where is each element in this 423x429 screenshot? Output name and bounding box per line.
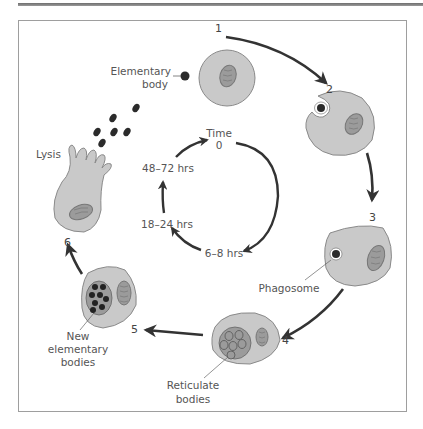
stage-4-cell [204,313,280,378]
arrow-4-to-5 [146,330,203,335]
label-reticulate-line2: bodies [176,393,211,405]
elementary-body-icon [181,72,190,81]
stage-number-3: 3 [369,211,376,224]
arrow-6h-to-18h [172,228,201,250]
arrow-3-to-4 [283,289,343,338]
label-new-eb-line3: bodies [61,356,96,368]
stage-5-cell [80,267,136,330]
label-elementary-body-line1: Elementary [111,65,171,77]
stage-number-2: 2 [326,83,333,96]
released-elementary-bodies-icon [92,103,141,149]
timeline-point-6-8: 6–8 hrs [205,247,243,259]
arrow-5-to-6 [68,245,82,274]
label-phagosome: Phagosome [258,282,319,294]
stage-number-6: 6 [64,236,71,249]
stage-number-1: 1 [215,22,222,35]
label-reticulate-line1: Reticulate [167,379,220,391]
timeline-title: Time [205,127,232,139]
arrow-0-to-6h [236,143,278,251]
timeline-point-18-24: 18–24 hrs [141,218,193,230]
label-new-eb-line2: elementary [48,343,108,355]
label-lysis: Lysis [36,148,61,160]
phagosome-icon [332,250,340,258]
nucleus-icon [117,281,131,305]
arrow-18h-to-48h [163,182,164,213]
stage-3-cell [305,226,391,286]
stage-number-4: 4 [282,334,289,347]
stage-6-cell [54,103,141,232]
arrow-2-to-3 [367,153,372,200]
label-elementary-body-line2: body [142,78,168,90]
life-cycle-diagram: 1 2 3 4 5 6 Elementary body Phagosome Re… [0,0,423,429]
timeline-point-0: 0 [216,139,223,151]
timeline-cycle [163,140,278,251]
stage-1-cell [173,50,255,106]
arrow-48h-to-0 [176,140,207,157]
elementary-body-icon [317,104,325,112]
stage-number-5: 5 [131,323,138,336]
label-new-eb-line1: New [67,330,90,342]
stage-2-cell [306,91,375,155]
timeline-point-48-72: 48–72 hrs [142,162,194,174]
